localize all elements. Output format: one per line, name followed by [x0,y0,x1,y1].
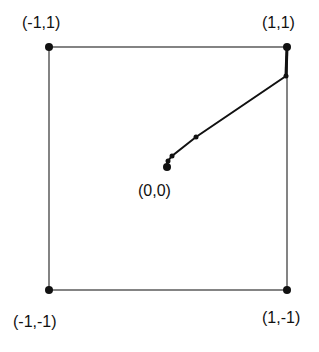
trajectory-path [167,47,287,167]
label-bottom-right: (1,-1) [262,309,300,327]
label-top-left: (-1,1) [22,14,60,32]
trajectory-top-segment [286,47,287,76]
path-dot [284,74,289,79]
origin-dot [163,163,171,171]
path-dot [194,135,199,140]
label-bottom-left: (-1,-1) [13,313,57,331]
path-dot [166,159,171,164]
corner-dot-top-left [45,43,53,51]
diagram-canvas [0,0,319,352]
corner-dot-top-right [283,43,291,51]
corner-dot-bottom-right [283,286,291,294]
label-origin: (0,0) [138,182,171,200]
corner-dot-bottom-left [45,286,53,294]
path-dot [170,154,175,159]
label-top-right: (1,1) [262,14,295,32]
